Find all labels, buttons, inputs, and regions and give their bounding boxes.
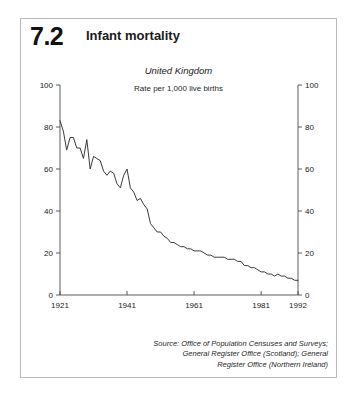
y-tick-label-right: 60 — [305, 165, 314, 174]
x-tick-label: 1921 — [51, 301, 69, 310]
source-note: Source: Office of Population Censuses an… — [118, 339, 328, 371]
source-line-3: Register Office (Northern Ireland) — [118, 360, 328, 371]
source-line-1: Source: Office of Population Censuses an… — [118, 339, 328, 350]
x-tick-label: 1981 — [252, 301, 270, 310]
y-tick-label-left: 0 — [49, 291, 54, 300]
y-tick-label-right: 80 — [305, 123, 314, 132]
y-tick-label-right: 100 — [305, 81, 319, 90]
y-tick-label-left: 80 — [44, 123, 53, 132]
chart-tick-labels: 0020204040606080801001001921194119611981… — [40, 81, 319, 310]
y-tick-label-left: 40 — [44, 207, 53, 216]
y-tick-label-left: 60 — [44, 165, 53, 174]
y-tick-label-right: 40 — [305, 207, 314, 216]
x-tick-label: 1961 — [185, 301, 203, 310]
x-tick-label: 1941 — [118, 301, 136, 310]
x-tick-label: 1992 — [289, 301, 307, 310]
y-tick-label-right: 0 — [305, 291, 310, 300]
infant-mortality-line-chart: 0020204040606080801001001921194119611981… — [21, 19, 338, 379]
chart-plot-area: 0020204040606080801001001921194119611981… — [21, 19, 338, 379]
chart-series — [60, 121, 298, 281]
source-line-2: General Register Office (Scotland); Gene… — [118, 349, 328, 360]
chart-axes — [56, 85, 302, 295]
y-tick-label-left: 100 — [40, 81, 54, 90]
figure-panel: 7.2 Infant mortality United Kingdom Rate… — [20, 18, 337, 378]
series-line — [60, 121, 298, 281]
y-tick-label-right: 20 — [305, 249, 314, 258]
y-tick-label-left: 20 — [44, 249, 53, 258]
